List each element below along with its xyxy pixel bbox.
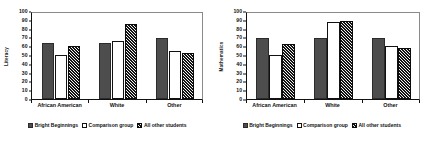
bar (156, 38, 168, 99)
bar (372, 38, 384, 99)
y-axis-tick-label: 20 (22, 80, 28, 85)
y-axis-tick-label: 90 (236, 18, 242, 23)
bar (385, 46, 397, 99)
legend-item-label: Comparison group (303, 122, 348, 128)
legend-item-label: All other students (358, 122, 401, 128)
y-axis-tick-label: 60 (236, 45, 242, 50)
bar (314, 38, 326, 99)
bar-group (32, 13, 89, 99)
bar (340, 21, 352, 99)
bar (327, 22, 339, 99)
y-axis-tick-label: 40 (236, 62, 242, 67)
white-outline-swatch (297, 123, 302, 128)
x-axis-category-label: White (325, 102, 340, 108)
y-axis-tick-label: 60 (22, 45, 28, 50)
y-axis-ticks: 0102030405060708090100 (0, 12, 31, 100)
bar-group (305, 13, 363, 99)
x-axis-category-label: African American (252, 102, 296, 108)
y-axis-tick-label: 100 (234, 9, 243, 14)
bar-group (363, 13, 421, 99)
bar (125, 24, 137, 99)
bar (42, 43, 54, 99)
y-axis-tick-label: 90 (22, 18, 28, 23)
x-axis-category-label: White (110, 102, 125, 108)
legend-item: All other students (137, 122, 186, 128)
bar-series-container (32, 13, 202, 99)
bar (55, 55, 67, 99)
legend-item-label: All other students (144, 122, 187, 128)
bar-group (247, 13, 305, 99)
x-axis-category-label: Other (383, 102, 397, 108)
bar (282, 44, 294, 99)
y-axis-tick-label: 10 (22, 89, 28, 94)
bar (169, 51, 181, 99)
chart-legend: Bright BeginningsComparison groupAll oth… (0, 122, 215, 128)
x-axis-category-label: Other (167, 102, 181, 108)
x-axis-category-label: African American (37, 102, 81, 108)
bar (182, 53, 194, 99)
y-axis-tick-label: 0 (239, 97, 242, 102)
y-axis-tick-label: 30 (22, 71, 28, 76)
bar-group (89, 13, 146, 99)
legend-item: Bright Beginnings (28, 122, 78, 128)
chart-legend: Bright BeginningsComparison groupAll oth… (215, 122, 429, 128)
y-axis-tick-label: 80 (22, 27, 28, 32)
two-panel-bar-chart-figure: Literacy 0102030405060708090100 African … (0, 0, 429, 148)
y-axis-tick-label: 80 (236, 27, 242, 32)
x-axis-labels: African AmericanWhiteOther (246, 102, 420, 114)
bar-series-container (247, 13, 419, 99)
y-axis-tick-label: 10 (236, 89, 242, 94)
y-axis-tick-label: 0 (25, 97, 28, 102)
y-axis-tick-label: 20 (236, 80, 242, 85)
bar (99, 43, 111, 99)
bar-group (147, 13, 204, 99)
plot-area (246, 12, 420, 100)
y-axis-tick-label: 50 (22, 53, 28, 58)
solid-gray-swatch (28, 123, 33, 128)
legend-item: All other students (352, 122, 401, 128)
bar (256, 38, 268, 99)
x-axis-labels: African AmericanWhiteOther (31, 102, 203, 114)
y-axis-tick-label: 100 (19, 9, 28, 14)
solid-gray-swatch (243, 123, 248, 128)
legend-item: Comparison group (297, 122, 348, 128)
plot-area (31, 12, 203, 100)
y-axis-tick-label: 40 (22, 62, 28, 67)
chart-panel-literacy: Literacy 0102030405060708090100 African … (0, 0, 215, 148)
hatched-black-swatch (352, 123, 357, 128)
legend-item-label: Bright Beginnings (35, 122, 78, 128)
bar (68, 46, 80, 99)
white-outline-swatch (82, 123, 87, 128)
bar (269, 55, 281, 99)
legend-item: Bright Beginnings (243, 122, 293, 128)
y-axis-tick-label: 30 (236, 71, 242, 76)
bar (112, 41, 124, 99)
y-axis-tick-label: 70 (22, 36, 28, 41)
y-axis-tick-label: 50 (236, 53, 242, 58)
legend-item: Comparison group (82, 122, 133, 128)
bar (398, 48, 410, 99)
y-axis-tick-label: 70 (236, 36, 242, 41)
legend-item-label: Bright Beginnings (249, 122, 292, 128)
chart-panel-mathematics: Mathematics 0102030405060708090100 Afric… (215, 0, 429, 148)
y-axis-ticks: 0102030405060708090100 (215, 12, 246, 100)
hatched-black-swatch (137, 123, 142, 128)
legend-item-label: Comparison group (89, 122, 134, 128)
